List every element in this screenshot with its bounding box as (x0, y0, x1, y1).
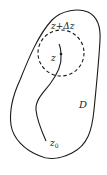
label-z-delta: z+Δz (50, 21, 75, 31)
label-z0-subscript: 0 (55, 142, 59, 149)
point-z-marker (60, 53, 63, 56)
label-z: z (50, 53, 56, 63)
integration-path (36, 44, 61, 141)
label-region-d: D (78, 99, 87, 110)
complex-region-diagram: z+Δz z D z0 (0, 0, 107, 175)
region-boundary (10, 10, 100, 158)
label-z0: z0 (49, 138, 59, 149)
